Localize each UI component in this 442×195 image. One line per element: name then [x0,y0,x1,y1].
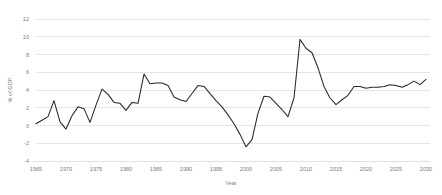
y-tick-label: 10 [23,34,29,40]
y-axis-tick-labels: 121086420-2-4 [23,16,29,164]
x-tick-label: 2030 [420,166,432,172]
x-tick-label: 1995 [210,166,222,172]
data-line-series [36,39,426,146]
line-chart: 121086420-2-4 19651970197519801985199019… [0,0,442,195]
x-tick-label: 1985 [150,166,162,172]
gridlines [36,19,430,143]
y-tick-label: 0 [26,123,29,129]
x-axis-title: Year [225,180,236,186]
x-axis-tick-labels: 1965197019751980198519901995200020052010… [30,166,432,172]
chart-container: 121086420-2-4 19651970197519801985199019… [0,0,442,195]
y-axis-title: % of GDP [7,77,13,102]
y-tick-label: 12 [23,16,29,22]
x-tick-label: 2025 [390,166,402,172]
x-tick-label: 2015 [330,166,342,172]
x-tick-label: 1990 [180,166,192,172]
y-tick-label: -2 [24,140,29,146]
y-tick-label: 8 [26,52,29,58]
y-tick-label: 6 [26,69,29,75]
x-tick-label: 2020 [360,166,372,172]
x-tick-label: 2000 [240,166,252,172]
y-tick-label: -4 [24,158,29,164]
x-tick-label: 1975 [90,166,102,172]
x-tick-label: 2010 [300,166,312,172]
y-tick-label: 2 [26,105,29,111]
x-tick-label: 1980 [120,166,132,172]
x-tick-label: 2005 [270,166,282,172]
y-tick-label: 4 [26,87,29,93]
x-tick-label: 1965 [30,166,42,172]
x-tick-label: 1970 [60,166,72,172]
